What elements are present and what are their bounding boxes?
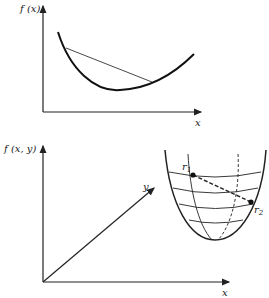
figure-top: f (x) x — [19, 3, 201, 128]
diagram-canvas: f (x) x f (x, y) y x r1 r2 — [0, 0, 269, 298]
x-axis-label: x — [195, 117, 201, 128]
point-r2-label: r2 — [254, 204, 264, 217]
y-axis-label: f (x) — [19, 3, 40, 14]
convex-curve — [58, 32, 194, 90]
bowl-surface — [165, 150, 266, 240]
chord-line — [66, 48, 152, 82]
figure-bottom: f (x, y) y x r1 r2 — [3, 143, 266, 298]
point-r2 — [248, 199, 253, 204]
z-axis-label: f (x, y) — [3, 143, 36, 154]
y-axis — [43, 188, 154, 282]
point-r1-label: r1 — [182, 161, 191, 174]
x-axis-label: x — [222, 287, 228, 298]
y-axis-label: y — [142, 181, 149, 192]
